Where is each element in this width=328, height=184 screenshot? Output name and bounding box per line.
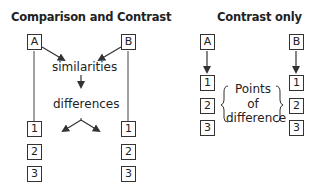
- right-list-a-item-3: 3: [200, 120, 215, 136]
- similarities-label: similarities: [52, 60, 117, 74]
- left-diagram-title: Comparison and Contrast: [11, 10, 171, 24]
- left-source-a-box: A: [27, 34, 42, 50]
- right-source-a-box: A: [200, 34, 215, 50]
- right-list-b-item-3: 3: [289, 120, 304, 136]
- differences-label: differences: [53, 97, 120, 111]
- left-list-b-item-3: 3: [121, 166, 136, 182]
- left-list-b-item-2: 2: [121, 144, 136, 160]
- right-list-a-item-1: 1: [200, 75, 215, 91]
- left-list-a-item-2: 2: [27, 144, 42, 160]
- right-source-b-box: B: [289, 34, 304, 50]
- left-list-a-item-3: 3: [27, 166, 42, 182]
- points-label-line3: difference: [226, 111, 280, 125]
- left-source-b-box: B: [121, 34, 136, 50]
- right-diagram-title: Contrast only: [217, 10, 302, 24]
- left-list-a-item-1: 1: [27, 121, 42, 137]
- connector-lines: [0, 0, 328, 184]
- right-list-b-item-1: 1: [289, 75, 304, 91]
- right-list-a-item-2: 2: [200, 98, 215, 114]
- points-label-line2: of: [234, 97, 272, 111]
- right-list-b-item-2: 2: [289, 98, 304, 114]
- points-label-line1: Points: [234, 82, 272, 96]
- left-list-b-item-1: 1: [121, 121, 136, 137]
